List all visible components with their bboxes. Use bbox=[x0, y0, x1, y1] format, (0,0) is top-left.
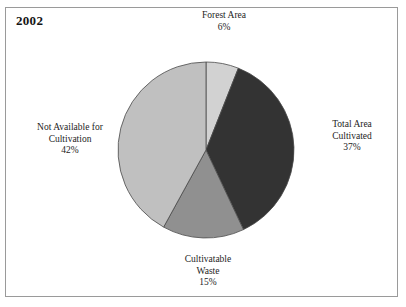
pie-chart-svg bbox=[116, 60, 296, 240]
slice-label-total-area-cultivated-value: 37% bbox=[310, 142, 394, 154]
slice-label-forest-area-value: 6% bbox=[178, 22, 270, 34]
slice-label-total-area-cultivated-name-1: Total Area bbox=[310, 119, 394, 131]
page-title: 2002 bbox=[16, 13, 43, 29]
slice-label-forest-area: Forest Area 6% bbox=[178, 10, 270, 33]
slice-label-cultivatable-waste: Cultivatable Waste 15% bbox=[162, 254, 254, 289]
slice-label-cultivatable-waste-value: 15% bbox=[162, 277, 254, 289]
pie-chart-figure: 2002 Forest Area 6% Total Area Cultivate… bbox=[0, 0, 406, 307]
slice-label-not-available-for-cultivation: Not Available for Cultivation 42% bbox=[18, 122, 122, 157]
slice-label-total-area-cultivated-name-2: Cultivated bbox=[310, 131, 394, 143]
pie-chart bbox=[116, 60, 296, 240]
slice-label-not-available-for-cultivation-name-1: Not Available for bbox=[18, 122, 122, 134]
slice-label-not-available-for-cultivation-name-2: Cultivation bbox=[18, 134, 122, 146]
slice-label-cultivatable-waste-name-2: Waste bbox=[162, 266, 254, 278]
slice-label-not-available-for-cultivation-value: 42% bbox=[18, 145, 122, 157]
slice-label-total-area-cultivated: Total Area Cultivated 37% bbox=[310, 119, 394, 154]
slice-label-forest-area-name: Forest Area bbox=[178, 10, 270, 22]
slice-label-cultivatable-waste-name-1: Cultivatable bbox=[162, 254, 254, 266]
